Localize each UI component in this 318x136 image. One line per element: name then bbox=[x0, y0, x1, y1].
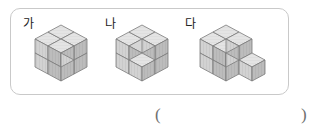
answer-row: ( ) bbox=[0, 98, 318, 136]
answer-blank-input[interactable] bbox=[166, 114, 298, 128]
figure-group-da: 다 bbox=[181, 9, 289, 94]
figure-label-da: 다 bbox=[185, 18, 196, 30]
figure-group-ga: 가 bbox=[19, 9, 105, 94]
answer-paren-close: ) bbox=[301, 106, 307, 123]
answer-paren-open: ( bbox=[155, 106, 161, 123]
figure-panel: 가 bbox=[10, 8, 289, 95]
figure-group-na: 나 bbox=[99, 9, 187, 94]
cube-stack-figure-da bbox=[197, 17, 305, 91]
